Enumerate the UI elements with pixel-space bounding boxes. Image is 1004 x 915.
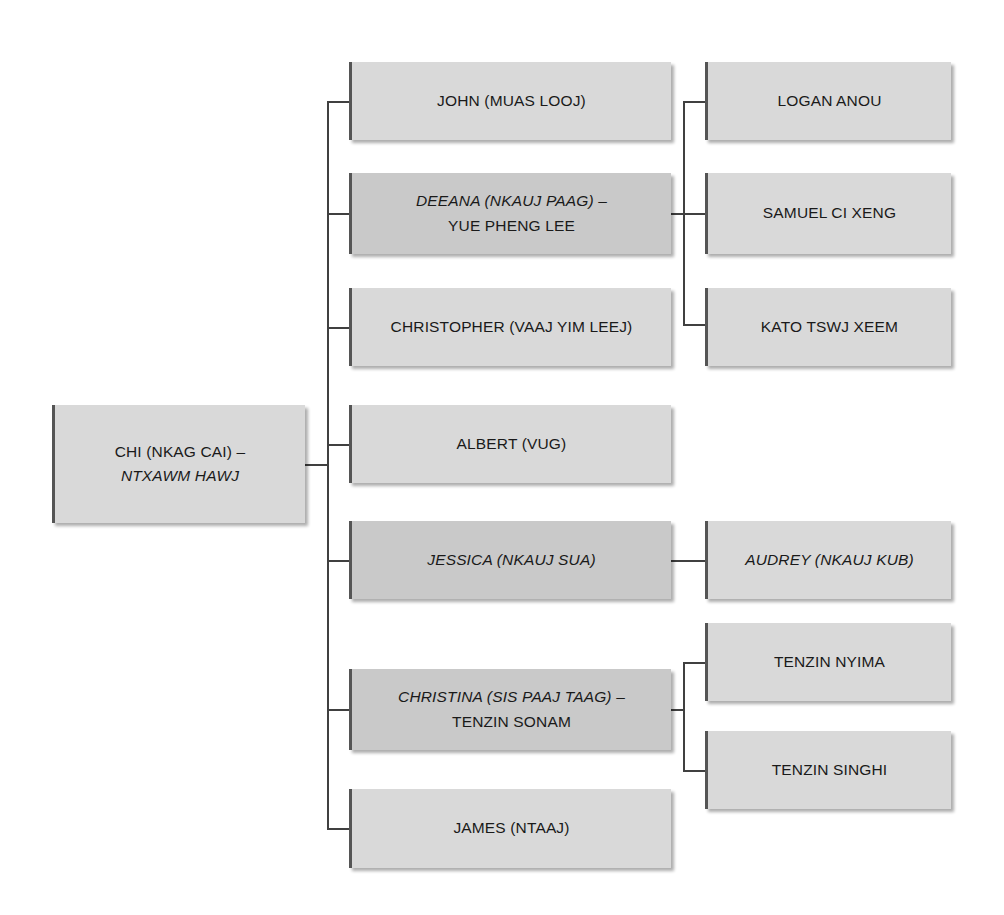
connector-stub-albert bbox=[327, 444, 351, 446]
node-logan-label: LOGAN ANOU bbox=[778, 89, 882, 113]
connector-stub-james bbox=[327, 828, 351, 830]
node-chi-line-1: CHI (NKAG CAI) – bbox=[115, 440, 246, 464]
node-christopher[interactable]: CHRISTOPHER (VAAJ YIM LEEJ) bbox=[349, 288, 671, 366]
node-albert[interactable]: ALBERT (VUG) bbox=[349, 405, 671, 483]
connector-stub-jessica bbox=[327, 560, 351, 562]
connector-stub-kato bbox=[683, 324, 707, 326]
family-tree-diagram: CHI (NKAG CAI) – NTXAWM HAWJ JOHN (MUAS … bbox=[0, 0, 1004, 915]
node-tenzin-singhi-label: TENZIN SINGHI bbox=[772, 758, 888, 782]
node-tenzin-singhi[interactable]: TENZIN SINGHI bbox=[705, 731, 951, 809]
node-deeana-line-1: DEEANA (NKAUJ PAAG) – bbox=[416, 189, 607, 213]
node-samuel-label: SAMUEL CI XENG bbox=[763, 201, 896, 225]
connector-stub-christina bbox=[327, 709, 351, 711]
node-logan[interactable]: LOGAN ANOU bbox=[705, 62, 951, 140]
node-samuel[interactable]: SAMUEL CI XENG bbox=[705, 173, 951, 254]
node-audrey[interactable]: AUDREY (NKAUJ KUB) bbox=[705, 521, 951, 599]
connector-jessica-audrey bbox=[669, 560, 707, 562]
node-kato-label: KATO TSWJ XEEM bbox=[761, 315, 898, 339]
node-jessica[interactable]: JESSICA (NKAUJ SUA) bbox=[349, 521, 671, 599]
node-tenzin-nyima[interactable]: TENZIN NYIMA bbox=[705, 623, 951, 701]
node-john[interactable]: JOHN (MUAS LOOJ) bbox=[349, 62, 671, 140]
node-jessica-label: JESSICA (NKAUJ SUA) bbox=[427, 548, 596, 572]
connector-root-stem bbox=[305, 464, 329, 466]
node-john-label: JOHN (MUAS LOOJ) bbox=[437, 89, 586, 113]
connector-stub-logan bbox=[683, 101, 707, 103]
node-christina-line-2: TENZIN SONAM bbox=[452, 710, 571, 734]
node-deeana-line-2: YUE PHENG LEE bbox=[448, 214, 575, 238]
connector-stub-john bbox=[327, 101, 351, 103]
node-chi-line-2: NTXAWM HAWJ bbox=[121, 464, 239, 488]
node-christopher-label: CHRISTOPHER (VAAJ YIM LEEJ) bbox=[391, 315, 633, 339]
node-kato[interactable]: KATO TSWJ XEEM bbox=[705, 288, 951, 366]
node-deeana[interactable]: DEEANA (NKAUJ PAAG) – YUE PHENG LEE bbox=[349, 173, 671, 254]
connector-stub-tenzin-nyima bbox=[683, 662, 707, 664]
node-christina[interactable]: CHRISTINA (SIS PAAJ TAAG) – TENZIN SONAM bbox=[349, 669, 671, 750]
node-albert-label: ALBERT (VUG) bbox=[457, 432, 567, 456]
node-christina-line-1: CHRISTINA (SIS PAAJ TAAG) – bbox=[398, 685, 625, 709]
connector-stub-deeana bbox=[327, 213, 351, 215]
connector-stub-christopher bbox=[327, 327, 351, 329]
node-chi[interactable]: CHI (NKAG CAI) – NTXAWM HAWJ bbox=[52, 405, 305, 523]
node-james-label: JAMES (NTAAJ) bbox=[453, 816, 569, 840]
connector-stub-tenzin-singhi bbox=[683, 770, 707, 772]
node-tenzin-nyima-label: TENZIN NYIMA bbox=[774, 650, 885, 674]
node-audrey-label: AUDREY (NKAUJ KUB) bbox=[745, 548, 914, 572]
node-james[interactable]: JAMES (NTAAJ) bbox=[349, 789, 671, 868]
connector-stub-samuel bbox=[683, 213, 707, 215]
connector-christina-trunk bbox=[683, 662, 685, 772]
